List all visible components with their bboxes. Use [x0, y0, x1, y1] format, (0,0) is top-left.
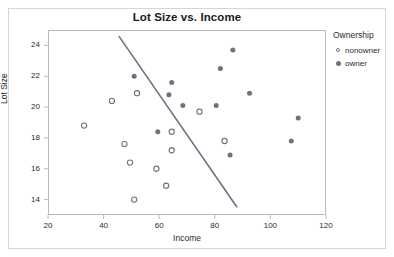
y-axis-label: Lot Size	[0, 73, 9, 104]
y-axis-tick-label: 18	[24, 133, 40, 142]
data-point-owner[interactable]	[214, 103, 219, 108]
data-point-owner[interactable]	[166, 92, 171, 97]
x-axis-tick-label: 60	[148, 221, 170, 230]
data-point-owner[interactable]	[169, 80, 174, 85]
legend-item-label: owner	[345, 59, 367, 68]
legend-item-owner[interactable]: owner	[333, 58, 389, 68]
data-point-owner[interactable]	[230, 48, 235, 53]
x-axis-tick-label: 40	[93, 221, 115, 230]
open-circle-icon	[333, 48, 343, 52]
data-point-owner[interactable]	[228, 152, 233, 157]
data-point-nonowner[interactable]	[169, 129, 174, 134]
y-axis-tick-label: 24	[24, 40, 40, 49]
y-axis-tick-label: 14	[24, 195, 40, 204]
data-point-nonowner[interactable]	[197, 109, 202, 114]
data-point-nonowner[interactable]	[154, 166, 159, 171]
data-point-owner[interactable]	[180, 103, 185, 108]
data-point-owner[interactable]	[247, 91, 252, 96]
discriminant-boundary	[119, 36, 237, 207]
data-point-owner[interactable]	[155, 129, 160, 134]
data-point-nonowner[interactable]	[127, 160, 132, 165]
x-axis-label: Income	[48, 233, 326, 243]
legend-item-nonowner[interactable]: nonowner	[333, 45, 389, 55]
filled-circle-icon	[333, 61, 343, 66]
x-axis-tick-label: 20	[37, 221, 59, 230]
data-point-nonowner[interactable]	[82, 123, 87, 128]
data-point-owner[interactable]	[296, 115, 301, 120]
data-point-nonowner[interactable]	[169, 148, 174, 153]
data-point-nonowner[interactable]	[134, 91, 139, 96]
data-point-nonowner[interactable]	[164, 183, 169, 188]
data-point-owner[interactable]	[132, 74, 137, 79]
y-axis-tick-label: 16	[24, 164, 40, 173]
y-axis-tick-label: 22	[24, 71, 40, 80]
data-point-nonowner[interactable]	[109, 98, 114, 103]
legend: Ownership nonowner owner	[333, 30, 389, 71]
legend-title: Ownership	[333, 30, 389, 40]
data-point-owner[interactable]	[289, 139, 294, 144]
chart-figure: Lot Size vs. Income Lot Size Income Owne…	[0, 0, 394, 257]
data-point-nonowner[interactable]	[132, 197, 137, 202]
y-axis-tick-label: 20	[24, 102, 40, 111]
data-point-nonowner[interactable]	[122, 141, 127, 146]
data-point-nonowner[interactable]	[222, 138, 227, 143]
legend-item-label: nonowner	[345, 46, 380, 55]
data-point-owner[interactable]	[218, 66, 223, 71]
x-axis-tick-label: 100	[259, 221, 281, 230]
x-axis-tick-label: 120	[315, 221, 337, 230]
x-axis-tick-label: 80	[204, 221, 226, 230]
